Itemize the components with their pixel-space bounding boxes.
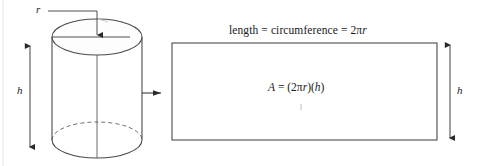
area-formula-label: A = (2πr)(h) [268,81,324,93]
length-radius-variable: r [362,24,367,36]
area-variable: A [268,81,275,93]
figure-container: r h h length = circumference = 2πr A = (… [0,0,479,166]
length-circumference-label: length = circumference = 2πr [229,24,367,36]
radius-label: r [36,3,40,15]
area-paren-end: ) [321,81,325,93]
cylinder-shape [52,19,142,158]
length-text-prefix: length = circumference = 2 [229,24,356,36]
scan-artifact-mark [300,104,302,110]
area-equals: = (2 [275,81,297,93]
rectangle-height-label: h [457,84,463,96]
area-paren-mid: )( [307,81,315,93]
cylinder-height-label: h [17,84,23,96]
